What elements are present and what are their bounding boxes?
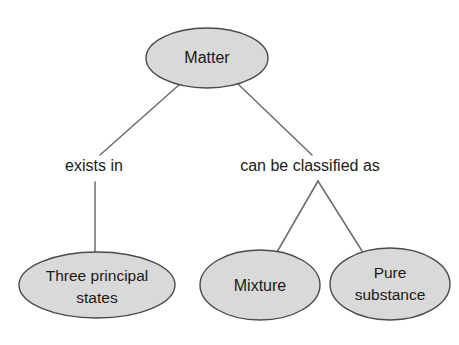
- node-pure-substance-label-line1: Pure: [374, 264, 407, 281]
- node-three-principal-states-label-line1: Three principal: [46, 267, 149, 284]
- node-matter-label: Matter: [184, 49, 230, 66]
- node-three-principal-states[interactable]: [19, 252, 175, 318]
- edge-matter-to-exists-in: [100, 84, 180, 155]
- edge-label-can-be-classified-as: can be classified as: [240, 157, 380, 174]
- edge-matter-to-can-be-classified-as: [238, 84, 312, 155]
- node-pure-substance[interactable]: [330, 248, 450, 320]
- concept-map-diagram: Matter Three principal states Mixture Pu…: [0, 0, 459, 345]
- edge-label-exists-in: exists in: [65, 157, 123, 174]
- edge-classified-to-mixture: [277, 181, 318, 252]
- node-mixture-label: Mixture: [234, 277, 287, 294]
- node-pure-substance-label-line2: substance: [355, 286, 426, 303]
- edge-classified-to-pure-substance: [318, 181, 362, 251]
- node-three-principal-states-label-line2: states: [76, 289, 118, 306]
- diagram-canvas: Matter Three principal states Mixture Pu…: [0, 0, 459, 345]
